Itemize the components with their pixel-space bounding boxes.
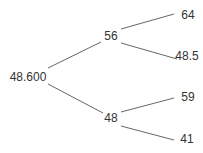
root-node: 48.600 [10, 71, 47, 83]
edge-48-59 [121, 98, 174, 112]
leaf-4: 41 [180, 133, 193, 145]
leaf-1: 64 [181, 9, 194, 21]
edge-56-64 [121, 14, 174, 29]
edge-root-48 [48, 84, 103, 113]
edge-root-56 [48, 42, 101, 68]
node-lower: 48 [104, 112, 117, 124]
node-upper: 56 [104, 30, 117, 42]
edge-48-41 [121, 126, 174, 140]
edge-56-48-5 [121, 43, 177, 59]
leaf-2: 48.5 [175, 50, 198, 62]
leaf-3: 59 [181, 91, 194, 103]
